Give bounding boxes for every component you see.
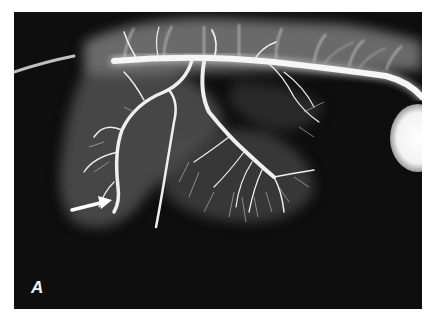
- contrast-sphere: [390, 104, 422, 172]
- angiogram-graphic: [14, 12, 422, 309]
- angiogram-image: A: [14, 12, 422, 309]
- tissue-haze: [60, 18, 422, 228]
- panel-label: A: [31, 278, 43, 298]
